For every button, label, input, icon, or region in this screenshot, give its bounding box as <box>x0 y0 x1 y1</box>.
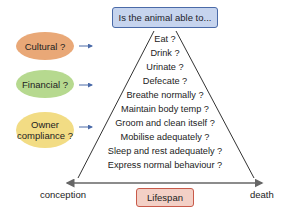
question-breathe: Breathe normally ? <box>70 90 260 101</box>
question-defecate: Defecate ? <box>70 76 260 87</box>
question-behaviour: Express normal behaviour ? <box>70 160 260 171</box>
question-urinate: Urinate ? <box>70 62 260 73</box>
factor-owner-compliance: Owner compliance ? <box>16 112 74 148</box>
axis-end-label: death <box>250 189 274 200</box>
lifespan-box: Lifespan <box>136 188 194 207</box>
factor-owner-line1: Owner <box>31 119 59 130</box>
question-eat: Eat ? <box>70 34 260 45</box>
factor-cultural-label: Cultural ? <box>25 41 66 52</box>
axis-start-label: conception <box>40 189 86 200</box>
factor-owner-line2: compliance ? <box>17 130 73 141</box>
factor-owner-compliance-label: Owner compliance ? <box>17 119 73 141</box>
factor-cultural: Cultural ? <box>16 32 74 60</box>
question-mobilise: Mobilise adequately ? <box>70 132 260 143</box>
question-groom: Groom and clean itself ? <box>70 118 260 129</box>
title-box: Is the animal able to... <box>112 7 218 28</box>
factor-financial-label: Financial ? <box>22 79 68 90</box>
question-drink: Drink ? <box>70 48 260 59</box>
question-body-temp: Maintain body temp ? <box>70 104 260 115</box>
question-sleep: Sleep and rest adequately ? <box>70 146 260 157</box>
factor-financial: Financial ? <box>16 70 74 98</box>
